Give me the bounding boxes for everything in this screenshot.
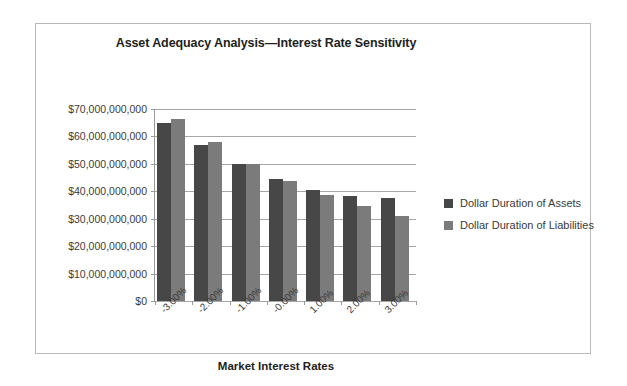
legend-swatch-liabilities (444, 221, 453, 230)
plot-area: $70,000,000,000$60,000,000,000$50,000,00… (155, 109, 416, 301)
bar-liabilities[interactable] (208, 142, 222, 301)
x-axis-tick-mark (341, 301, 342, 305)
bar-assets[interactable] (157, 123, 171, 301)
x-axis-tick-mark (155, 301, 156, 305)
x-axis-tick-mark (192, 301, 193, 305)
y-axis-tick-label: $30,000,000,000 (68, 213, 147, 224)
y-axis-tick-label: $50,000,000,000 (68, 159, 147, 170)
x-axis-tick-mark (304, 301, 305, 305)
bar-assets[interactable] (306, 190, 320, 301)
bar-liabilities[interactable] (171, 119, 185, 301)
y-axis-tick-label: $0 (135, 296, 147, 307)
y-axis-tick-label: $20,000,000,000 (68, 241, 147, 252)
bar-assets[interactable] (269, 179, 283, 301)
legend-item[interactable]: Dollar Duration of Assets (444, 192, 594, 214)
bar-group[interactable] (304, 109, 341, 301)
legend-item-label: Dollar Duration of Assets (460, 197, 581, 209)
bar-liabilities[interactable] (246, 164, 260, 301)
y-axis-tick-label: $10,000,000,000 (68, 268, 147, 279)
bar-group[interactable] (379, 109, 416, 301)
y-axis-tick-label: $70,000,000,000 (68, 104, 147, 115)
y-axis-tick-label: $60,000,000,000 (68, 131, 147, 142)
bar-group[interactable] (192, 109, 229, 301)
bar-assets[interactable] (232, 164, 246, 301)
chart-frame: Asset Adequacy Analysis—Interest Rate Se… (35, 23, 591, 354)
x-axis-tick-mark (267, 301, 268, 305)
legend-swatch-assets (444, 199, 453, 208)
bar-group[interactable] (230, 109, 267, 301)
legend-item[interactable]: Dollar Duration of Liabilities (444, 214, 594, 236)
x-axis-tick-mark (230, 301, 231, 305)
bar-assets[interactable] (343, 196, 357, 301)
chart-legend: Dollar Duration of AssetsDollar Duration… (444, 192, 594, 236)
bar-assets[interactable] (194, 145, 208, 301)
bar-assets[interactable] (381, 198, 395, 301)
x-axis-tick-mark (416, 301, 417, 305)
x-axis-tick-mark (379, 301, 380, 305)
bar-liabilities[interactable] (320, 195, 334, 301)
y-axis-tick-label: $40,000,000,000 (68, 186, 147, 197)
bar-group[interactable] (267, 109, 304, 301)
bar-group[interactable] (341, 109, 378, 301)
bar-group[interactable] (155, 109, 192, 301)
bar-liabilities[interactable] (283, 181, 297, 301)
x-axis-title: Market Interest Rates (131, 360, 421, 372)
legend-item-label: Dollar Duration of Liabilities (460, 219, 594, 231)
chart-title: Asset Adequacy Analysis—Interest Rate Se… (36, 36, 496, 50)
